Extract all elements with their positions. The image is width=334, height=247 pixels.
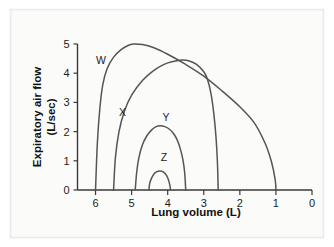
y-axis-title-line1: Expiratory air flow: [31, 67, 43, 167]
y-axis-title: Expiratory air flow (L/sec): [31, 67, 57, 167]
x-axis-title: Lung volume (L): [151, 206, 241, 218]
y-tick-label: 5: [63, 38, 69, 50]
y-tick-label: 2: [63, 126, 69, 138]
figure-root: 012345 6543210 WXYZ Expiratory air flow …: [0, 0, 334, 247]
x-tick-label: 6: [92, 197, 98, 209]
curve-z: [149, 171, 171, 190]
curve-x: [114, 60, 219, 190]
y-tick-label: 3: [63, 96, 69, 108]
curve-label-w: W: [96, 54, 106, 66]
y-tick-label: 0: [63, 184, 69, 196]
curve-label-y: Y: [162, 111, 169, 123]
x-tick-marks: [96, 190, 312, 195]
y-tick-label: 4: [63, 67, 69, 79]
y-tick-label: 1: [63, 155, 69, 167]
y-axis-title-line2: (L/sec): [45, 98, 57, 135]
curve-label-x: X: [119, 106, 126, 118]
curve-label-z: Z: [161, 151, 168, 163]
y-tick-labels: 012345: [63, 38, 69, 196]
x-tick-label: 0: [309, 197, 315, 209]
x-tick-label: 1: [273, 197, 279, 209]
flow-volume-chart: 012345 6543210 WXYZ Expiratory air flow …: [0, 0, 334, 247]
x-tick-label: 5: [129, 197, 135, 209]
